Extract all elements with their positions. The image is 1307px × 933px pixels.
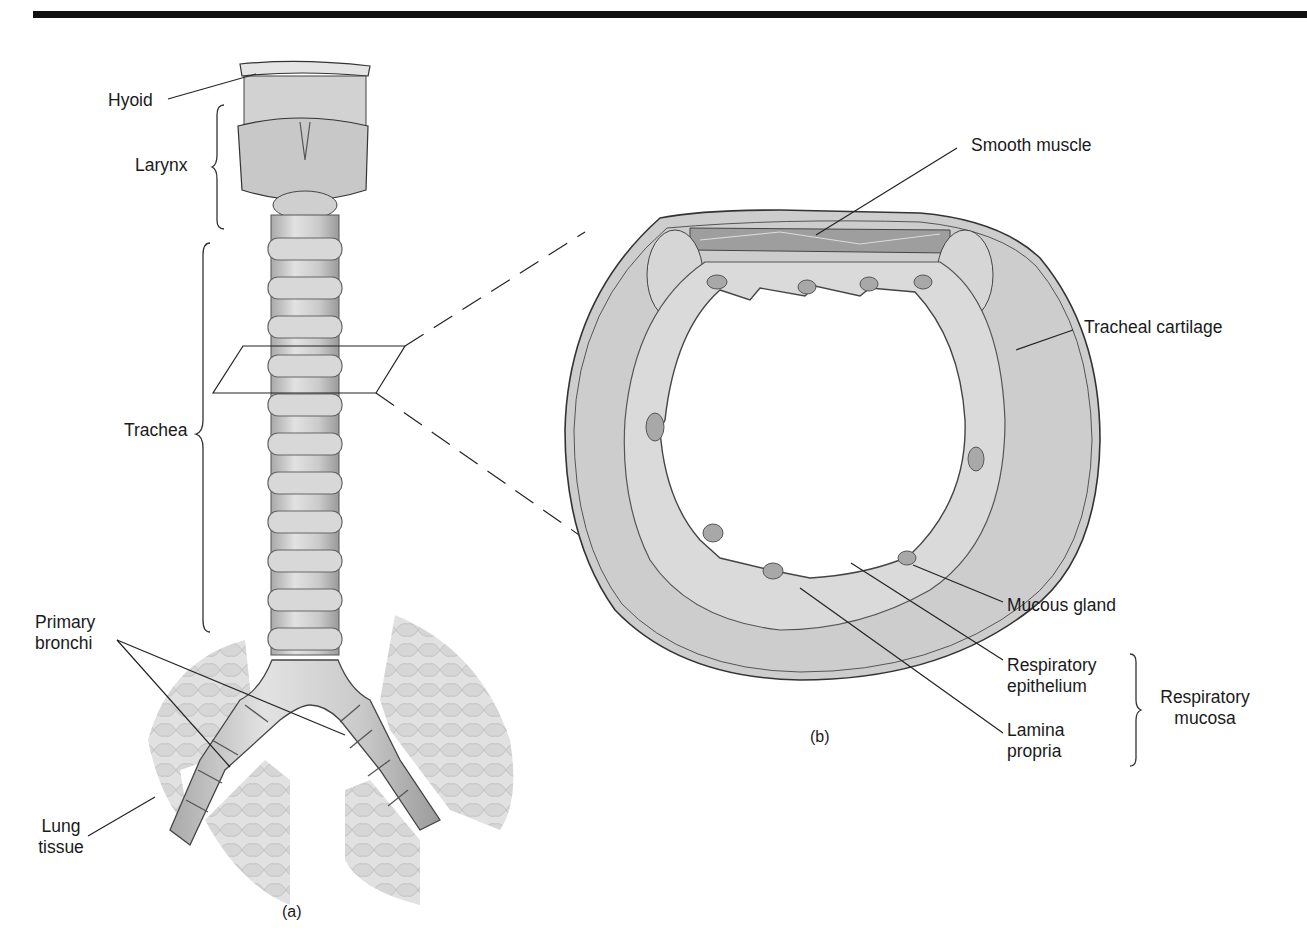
- trachea-shape: [170, 215, 440, 845]
- label-mucous-gland: Mucous gland: [1007, 595, 1116, 616]
- label-larynx: Larynx: [135, 155, 188, 176]
- caption-b: (b): [810, 728, 830, 746]
- trachea-illustration: [0, 0, 1307, 933]
- label-smooth-muscle: Smooth muscle: [971, 135, 1092, 156]
- label-respiratory-epithelium: Respiratory epithelium: [1007, 655, 1096, 697]
- caption-a: (a): [282, 903, 302, 921]
- larynx-shape: [238, 61, 370, 219]
- label-primary-bronchi: Primary bronchi: [35, 612, 95, 654]
- label-trachea: Trachea: [124, 420, 188, 441]
- label-tracheal-cartilage: Tracheal cartilage: [1084, 317, 1222, 338]
- label-lung-tissue: Lung tissue: [36, 816, 86, 858]
- label-hyoid: Hyoid: [108, 90, 153, 111]
- label-respiratory-mucosa: Respiratory mucosa: [1150, 687, 1260, 729]
- label-lamina-propria: Lamina propria: [1007, 720, 1064, 762]
